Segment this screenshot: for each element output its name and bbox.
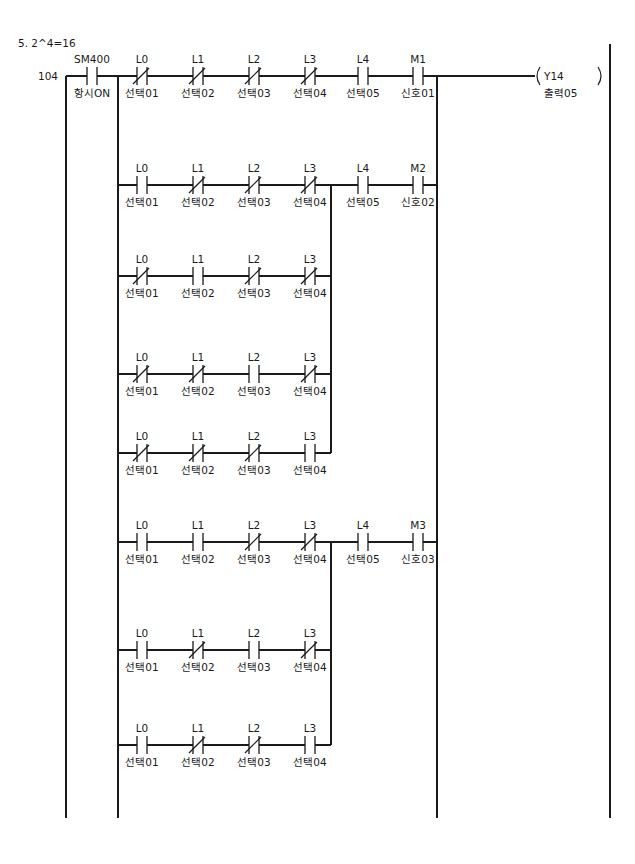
rung-4-c2-top-label: L1 bbox=[192, 351, 205, 363]
rung-3-c1-top-label: L0 bbox=[136, 253, 149, 265]
rung-1-c5-bottom-label: 선택05 bbox=[346, 87, 379, 99]
coil-open-paren bbox=[537, 67, 540, 85]
rung-7-c1-top-label: L0 bbox=[136, 627, 149, 639]
rung-8-c4-top-label: L3 bbox=[304, 722, 317, 734]
rung-6-c6-contact-symbol[interactable] bbox=[413, 533, 423, 551]
rung-1-c3-bottom-label: 선택03 bbox=[237, 87, 270, 99]
rung-5-c3-bottom-label: 선택03 bbox=[237, 464, 270, 476]
rung-2-c5-contact-symbol[interactable] bbox=[358, 176, 368, 194]
rung-6-c2-top-label: L1 bbox=[192, 519, 205, 531]
rung-5-c2-bottom-label: 선택02 bbox=[181, 464, 214, 476]
rung-5-c4-contact-symbol[interactable] bbox=[305, 444, 315, 462]
rung-2-c4-top-label: L3 bbox=[304, 162, 317, 174]
rung-3-c4-bottom-label: 선택04 bbox=[293, 287, 327, 299]
rung-2-c4-bottom-label: 선택04 bbox=[293, 196, 327, 208]
rung-6-c5-contact-symbol[interactable] bbox=[358, 533, 368, 551]
rung-8-c2-top-label: L1 bbox=[192, 722, 205, 734]
rung-1-c3-top-label: L2 bbox=[248, 53, 261, 65]
rung-6-c3-top-label: L2 bbox=[248, 519, 261, 531]
rung-4-c1-bottom-label: 선택01 bbox=[125, 385, 158, 397]
rung-2-c6-contact-symbol[interactable] bbox=[413, 176, 423, 194]
rung-6-c2-contact-symbol[interactable] bbox=[193, 533, 203, 551]
rung-2-c6-top-label: M2 bbox=[410, 162, 426, 174]
rung-1-c4-bottom-label: 선택04 bbox=[293, 87, 327, 99]
rung-4-c1-top-label: L0 bbox=[136, 351, 149, 363]
rung-7-c3-top-label: L2 bbox=[248, 627, 261, 639]
ladder-diagram-canvas: 1045. 2^4=16SM400항시ONL0선택01L1선택02L2선택03L… bbox=[0, 0, 635, 864]
rung-1-c6-bottom-label: 신호01 bbox=[401, 87, 434, 99]
step-number-text: 104 bbox=[38, 70, 58, 82]
rung-1-c4-top-label: L3 bbox=[304, 53, 317, 65]
rung-8-c2-bottom-label: 선택02 bbox=[181, 756, 214, 768]
rung-3-c2-bottom-label: 선택02 bbox=[181, 287, 214, 299]
rung-8-c1-top-label: L0 bbox=[136, 722, 149, 734]
rung-4-c4-top-label: L3 bbox=[304, 351, 317, 363]
rung-7-c3-contact-symbol[interactable] bbox=[249, 641, 259, 659]
rung-1-c6-contact-symbol[interactable] bbox=[413, 67, 423, 85]
rung-1-c2-bottom-label: 선택02 bbox=[181, 87, 214, 99]
rung-2-c3-bottom-label: 선택03 bbox=[237, 196, 270, 208]
rung-6-c2-bottom-label: 선택02 bbox=[181, 553, 214, 565]
rung-6-c3-bottom-label: 선택03 bbox=[237, 553, 270, 565]
rung-3-c2-top-label: L1 bbox=[192, 253, 205, 265]
rung-6-c6-top-label: M3 bbox=[410, 519, 426, 531]
rung-8-c1-bottom-label: 선택01 bbox=[125, 756, 158, 768]
rung-6-c1-contact-symbol[interactable] bbox=[137, 533, 147, 551]
rung-1-c5-top-label: L4 bbox=[357, 53, 370, 65]
rung-3-c3-top-label: L2 bbox=[248, 253, 261, 265]
rung-3-c4-top-label: L3 bbox=[304, 253, 317, 265]
coil-close-paren bbox=[598, 67, 601, 85]
rung-8-c1-contact-symbol[interactable] bbox=[137, 736, 147, 754]
rung-6-c5-top-label: L4 bbox=[357, 519, 370, 531]
rung-8-c4-contact-symbol[interactable] bbox=[305, 736, 315, 754]
rung-2-c1-bottom-label: 선택01 bbox=[125, 196, 158, 208]
rung-2-c5-top-label: L4 bbox=[357, 162, 370, 174]
ladder-diagram-root: 1045. 2^4=16SM400항시ONL0선택01L1선택02L2선택03L… bbox=[0, 0, 635, 864]
rung-3-c1-bottom-label: 선택01 bbox=[125, 287, 158, 299]
rung-1-c1-bottom-label: 선택01 bbox=[125, 87, 158, 99]
rung-7-c3-bottom-label: 선택03 bbox=[237, 661, 270, 673]
rung-4-c3-top-label: L2 bbox=[248, 351, 261, 363]
rung-8-c4-bottom-label: 선택04 bbox=[293, 756, 327, 768]
rung-6-c5-bottom-label: 선택05 bbox=[346, 553, 379, 565]
sm400-contact-symbol[interactable] bbox=[87, 67, 97, 85]
rung-2-c1-contact-symbol[interactable] bbox=[137, 176, 147, 194]
rung-5-c2-top-label: L1 bbox=[192, 430, 205, 442]
text-layer: 1045. 2^4=16SM400항시ONL0선택01L1선택02L2선택03L… bbox=[18, 37, 577, 768]
rung-6-c4-bottom-label: 선택04 bbox=[293, 553, 327, 565]
rung-8-c3-top-label: L2 bbox=[248, 722, 261, 734]
rung-2-c6-bottom-label: 신호02 bbox=[401, 196, 434, 208]
sm400-bottom-label: 항시ON bbox=[74, 87, 110, 99]
rung-7-c4-bottom-label: 선택04 bbox=[293, 661, 327, 673]
diagram-title-text: 5. 2^4=16 bbox=[18, 37, 76, 49]
rung-4-c3-bottom-label: 선택03 bbox=[237, 385, 270, 397]
rung-1-c1-top-label: L0 bbox=[136, 53, 149, 65]
rung-2-c3-top-label: L2 bbox=[248, 162, 261, 174]
sm400-top-label: SM400 bbox=[74, 53, 110, 65]
rung-7-c4-top-label: L3 bbox=[304, 627, 317, 639]
rung-1-c5-contact-symbol[interactable] bbox=[358, 67, 368, 85]
rung-6-c1-bottom-label: 선택01 bbox=[125, 553, 158, 565]
rung-4-c4-bottom-label: 선택04 bbox=[293, 385, 327, 397]
rung-7-c2-bottom-label: 선택02 bbox=[181, 661, 214, 673]
rung-5-c3-top-label: L2 bbox=[248, 430, 261, 442]
coil-top-label: Y14 bbox=[543, 70, 564, 82]
rung-5-c4-top-label: L3 bbox=[304, 430, 317, 442]
rung-6-c1-top-label: L0 bbox=[136, 519, 149, 531]
rung-7-c2-top-label: L1 bbox=[192, 627, 205, 639]
rung-6-c4-top-label: L3 bbox=[304, 519, 317, 531]
symbol-layer bbox=[87, 67, 601, 754]
rung-3-c3-bottom-label: 선택03 bbox=[237, 287, 270, 299]
rung-5-c1-bottom-label: 선택01 bbox=[125, 464, 158, 476]
rung-4-c3-contact-symbol[interactable] bbox=[249, 365, 259, 383]
rung-2-c1-top-label: L0 bbox=[136, 162, 149, 174]
rung-5-c1-top-label: L0 bbox=[136, 430, 149, 442]
rung-7-c1-bottom-label: 선택01 bbox=[125, 661, 158, 673]
rung-4-c2-bottom-label: 선택02 bbox=[181, 385, 214, 397]
rung-2-c2-bottom-label: 선택02 bbox=[181, 196, 214, 208]
rung-5-c4-bottom-label: 선택04 bbox=[293, 464, 327, 476]
rung-3-c2-contact-symbol[interactable] bbox=[193, 267, 203, 285]
rung-2-c2-top-label: L1 bbox=[192, 162, 205, 174]
rung-7-c1-contact-symbol[interactable] bbox=[137, 641, 147, 659]
rung-2-c5-bottom-label: 선택05 bbox=[346, 196, 379, 208]
